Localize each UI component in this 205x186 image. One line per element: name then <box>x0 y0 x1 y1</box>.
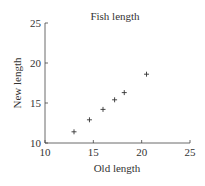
plus-marker-icon <box>72 129 77 134</box>
y-axis-label: New length <box>11 57 23 109</box>
y-tick-label: 20 <box>30 57 42 69</box>
y-tick-label: 10 <box>30 137 42 149</box>
y-tick-label: 25 <box>30 17 42 29</box>
x-tick-label: 15 <box>88 146 100 158</box>
plus-marker-icon <box>122 90 127 95</box>
plus-marker-icon <box>144 72 149 77</box>
scatter-chart: Fish length 10152025 10152025 Old length… <box>0 0 205 186</box>
axes <box>45 23 190 143</box>
y-tick-label: 15 <box>30 97 42 109</box>
data-points <box>72 72 150 135</box>
x-tick-label: 20 <box>136 146 148 158</box>
chart-title: Fish length <box>90 10 140 22</box>
x-tick-label: 25 <box>185 146 197 158</box>
x-tick-label: 10 <box>40 146 52 158</box>
plus-marker-icon <box>112 97 117 102</box>
plus-marker-icon <box>87 117 92 122</box>
x-axis-label: Old length <box>94 162 141 174</box>
plus-marker-icon <box>101 107 106 112</box>
